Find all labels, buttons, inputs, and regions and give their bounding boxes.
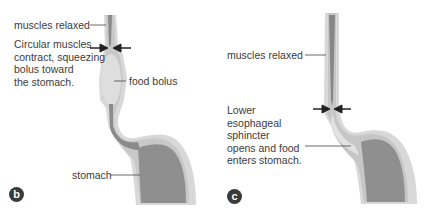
label-line: Circular muscles (14, 38, 105, 51)
panel-badge-b: b (9, 187, 24, 202)
label-muscles-relaxed: muscles relaxed (14, 19, 90, 32)
panel-badge-c: c (227, 189, 242, 204)
label-muscles-relaxed: muscles relaxed (227, 49, 303, 62)
label-line: bolus toward (14, 63, 105, 76)
label-line: opens and food (227, 142, 302, 155)
panel-c-sphincter: muscles relaxed Lower esophageal sphinct… (221, 0, 442, 210)
label-line: the stomach. (14, 76, 105, 89)
label-line: sphincter (227, 129, 302, 142)
label-circular-muscles: Circular muscles contract, squeezing bol… (14, 38, 105, 88)
panel-b-peristalsis: muscles relaxed Circular muscles contrac… (0, 0, 221, 210)
label-line: enters stomach. (227, 154, 302, 167)
label-line: Lower (227, 104, 302, 117)
label-stomach: stomach (72, 169, 112, 182)
label-line: esophageal (227, 117, 302, 130)
label-sphincter: Lower esophageal sphincter opens and foo… (227, 104, 302, 167)
label-food-bolus: food bolus (129, 75, 177, 88)
label-line: contract, squeezing (14, 51, 105, 64)
